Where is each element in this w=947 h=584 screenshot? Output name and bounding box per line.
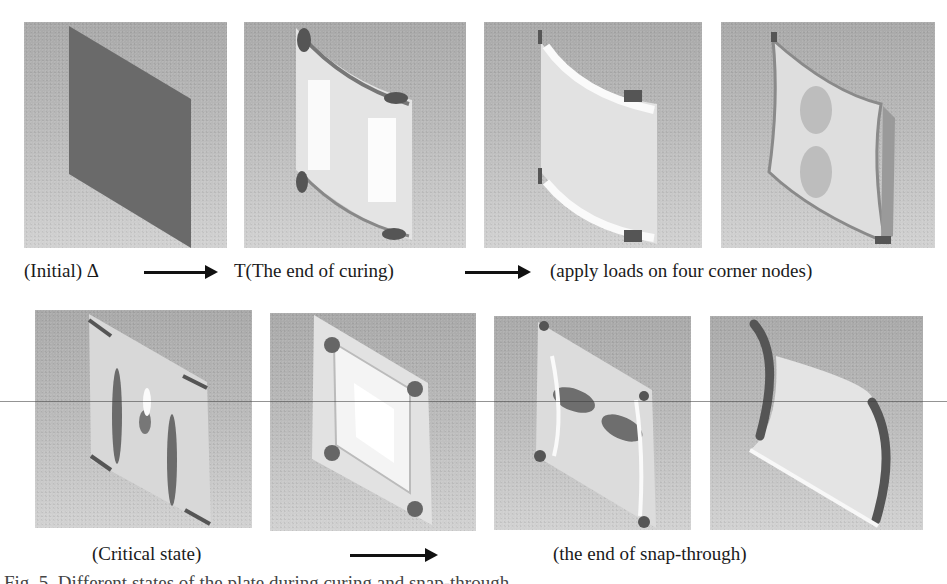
- arrow-icon: [144, 265, 218, 279]
- label-snap: (the end of snap-through): [553, 543, 747, 565]
- critical-plate-shape: [35, 310, 252, 528]
- panel-load-1: [484, 22, 702, 248]
- panel-critical-1: [35, 310, 252, 528]
- label-cured: T(The end of curing): [234, 260, 394, 282]
- loaded-plate-shape: [484, 22, 702, 248]
- panel-load-2: [721, 22, 935, 248]
- arrow-icon: [350, 548, 438, 562]
- arrow-icon: [465, 265, 531, 279]
- deformed-plate-shape: [721, 22, 935, 248]
- flat-plate-shape: [24, 22, 227, 248]
- cured-plate-shape: [244, 22, 466, 248]
- label-critical: (Critical state): [92, 543, 201, 565]
- panel-cured: [244, 22, 466, 248]
- snapped-plate-shape: [710, 316, 923, 530]
- panel-initial: [24, 22, 227, 248]
- snapping-plate-shape: [494, 316, 691, 530]
- scan-line-artifact: [0, 401, 947, 402]
- figure-caption: Fig. 5. Different states of the plate du…: [4, 570, 509, 584]
- label-initial: (Initial) Δ: [24, 260, 99, 282]
- label-loads: (apply loads on four corner nodes): [550, 260, 812, 282]
- panel-critical-2: [270, 313, 476, 531]
- panel-snap-2: [710, 316, 923, 530]
- panel-snap-1: [494, 316, 691, 530]
- transition-plate-shape: [270, 313, 476, 531]
